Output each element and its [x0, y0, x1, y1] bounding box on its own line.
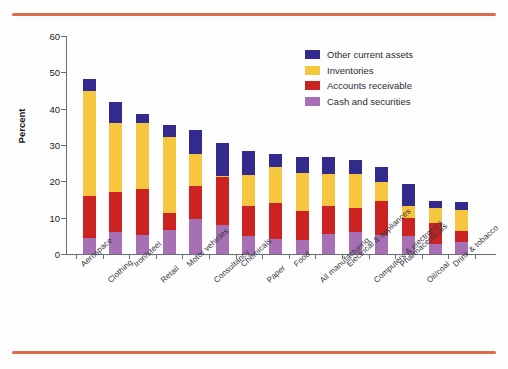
y-axis-tick — [61, 72, 66, 73]
bar-segment — [455, 242, 468, 254]
legend-label: Accounts receivable — [327, 80, 412, 91]
bar-segment — [136, 189, 149, 235]
legend-swatch-inventories — [305, 66, 320, 75]
bar-segment — [216, 143, 229, 176]
chart-legend: Other current assetsInventoriesAccounts … — [305, 47, 413, 109]
bar-segment — [349, 232, 362, 254]
bar-segment — [242, 236, 255, 254]
bar-segment — [375, 235, 388, 254]
bar-segment — [402, 184, 415, 206]
bar-segment — [163, 230, 176, 254]
bar-segment — [455, 202, 468, 210]
bar-segment — [455, 210, 468, 231]
bar-segment — [189, 130, 202, 154]
y-axis-tick-labels: 0102030405060 — [0, 36, 60, 255]
bar-segment — [322, 206, 335, 234]
bar-segment — [269, 167, 282, 203]
y-axis-tick — [61, 254, 66, 255]
bar-segment — [269, 154, 282, 167]
x-axis-category-label: Paper — [265, 263, 287, 284]
bar-segment — [163, 213, 176, 230]
bar-segment — [375, 182, 388, 201]
bar-segment — [242, 175, 255, 206]
x-axis-tick — [448, 254, 449, 259]
y-axis-tick-label: 10 — [8, 212, 60, 223]
x-axis-tick — [422, 254, 423, 259]
x-axis-tick — [369, 254, 370, 259]
bar-segment — [109, 232, 122, 254]
y-axis-tick-label: 30 — [8, 140, 60, 151]
bar-segment — [296, 211, 309, 240]
bar-segment — [455, 231, 468, 241]
bar-segment — [349, 160, 362, 175]
y-axis-tick-label: 50 — [8, 67, 60, 78]
legend-label: Inventories — [327, 65, 373, 76]
bar-segment — [216, 177, 229, 224]
bar-segment — [83, 238, 96, 254]
bar-segment — [322, 234, 335, 254]
bottom-divider-rule — [12, 351, 496, 354]
x-axis-tick — [289, 254, 290, 259]
x-axis-tick — [475, 254, 476, 259]
bar-segment — [189, 186, 202, 219]
legend-item[interactable]: Accounts receivable — [305, 78, 413, 94]
bar-segment — [109, 192, 122, 232]
bar-segment — [136, 235, 149, 254]
bar-segment — [429, 244, 442, 254]
x-axis-tick — [76, 254, 77, 259]
bar-segment — [349, 174, 362, 208]
legend-label: Cash and securities — [327, 96, 410, 107]
bar-segment — [216, 176, 229, 177]
x-axis-line — [66, 254, 496, 255]
x-axis-tick — [342, 254, 343, 259]
y-axis-tick-label: 40 — [8, 103, 60, 114]
x-axis-tick — [129, 254, 130, 259]
bar-segment — [189, 219, 202, 254]
bar-segment — [322, 174, 335, 206]
bar-segment — [349, 208, 362, 232]
bar-segment — [242, 151, 255, 175]
x-axis-tick — [209, 254, 210, 259]
x-axis-category-label: Retail — [159, 264, 181, 285]
bar-segment — [429, 201, 442, 208]
y-axis-tick — [61, 218, 66, 219]
bar-segment — [296, 173, 309, 211]
bar-segment — [269, 239, 282, 254]
x-axis-category-label: Oil/coal — [425, 260, 451, 285]
legend-swatch-cash — [305, 97, 320, 106]
x-axis-tick — [395, 254, 396, 259]
bar-segment — [375, 167, 388, 183]
y-axis-tick — [61, 109, 66, 110]
bar-segment — [83, 196, 96, 237]
y-axis-tick — [61, 181, 66, 182]
bar-segment — [83, 91, 96, 197]
x-axis-category-label: Clothing — [106, 258, 134, 285]
legend-swatch-other — [305, 50, 320, 59]
x-axis-tick — [315, 254, 316, 259]
bar-segment — [163, 125, 176, 137]
y-axis-tick-label: 60 — [8, 31, 60, 42]
x-axis-tick — [103, 254, 104, 259]
bar-segment — [242, 206, 255, 236]
bar-segment — [216, 225, 229, 254]
bar-segment — [296, 240, 309, 254]
legend-swatch-receivable — [305, 81, 320, 90]
bar-segment — [402, 206, 415, 218]
legend-label: Other current assets — [327, 49, 413, 60]
bar-segment — [322, 157, 335, 174]
bar-segment — [136, 114, 149, 123]
x-axis-tick — [182, 254, 183, 259]
legend-item[interactable]: Other current assets — [305, 47, 413, 63]
y-axis-line — [66, 36, 67, 255]
chart-figure: Percent 0102030405060 AerospaceClothingI… — [0, 0, 508, 369]
bar-segment — [269, 203, 282, 239]
y-axis-tick-label: 0 — [8, 249, 60, 260]
legend-item[interactable]: Cash and securities — [305, 94, 413, 110]
bar-segment — [375, 201, 388, 235]
bar-segment — [402, 218, 415, 236]
bar-segment — [83, 79, 96, 90]
bar-segment — [109, 123, 122, 192]
bar-segment — [402, 236, 415, 254]
x-axis-tick — [236, 254, 237, 259]
legend-item[interactable]: Inventories — [305, 63, 413, 79]
